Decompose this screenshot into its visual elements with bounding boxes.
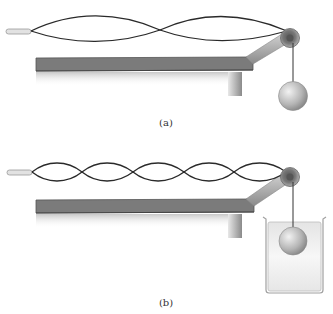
table-leg (228, 72, 242, 96)
table-top (36, 199, 254, 213)
table-top (36, 57, 253, 71)
panel-a (6, 16, 308, 111)
table-shadow (36, 72, 242, 86)
table-shadow (36, 214, 242, 228)
table-leg (228, 214, 242, 238)
vibrator-clip (7, 170, 32, 175)
standing-wave-string (32, 163, 286, 181)
standing-wave-string (31, 16, 287, 42)
panel-a-label: (a) (159, 117, 173, 128)
pulley-hub (287, 35, 294, 42)
submerged-mass (279, 227, 307, 255)
vibrator-clip (6, 29, 31, 34)
pulley-hub (287, 174, 294, 181)
panel-b-label: (b) (159, 297, 173, 308)
panel-b (7, 163, 326, 293)
hanging-mass (279, 82, 308, 111)
standing-wave-diagram (0, 0, 333, 314)
